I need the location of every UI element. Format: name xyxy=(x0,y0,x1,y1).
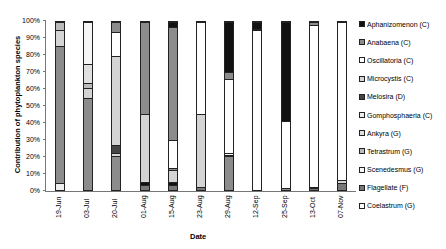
bar-segment xyxy=(310,188,318,190)
x-tick-label: 07-Nov xyxy=(337,195,344,218)
legend-label: Microcystis (C) xyxy=(367,75,413,82)
legend-swatch-icon xyxy=(359,203,365,209)
legend-label: Ankyra (G) xyxy=(367,130,401,137)
bar-segment xyxy=(282,188,290,190)
bar-segment xyxy=(112,32,120,56)
x-tick-label: 20-Jul xyxy=(111,199,118,218)
bar-segment xyxy=(197,187,205,190)
bar-segment xyxy=(56,183,64,190)
legend-item: Melosira (D) xyxy=(359,88,432,106)
y-tick-label: 10% xyxy=(18,170,40,177)
y-tick-mark xyxy=(43,105,46,106)
y-tick-mark xyxy=(43,37,46,38)
bar-29-Aug xyxy=(224,21,234,191)
bar-segment xyxy=(112,22,120,32)
y-tick-label: 60% xyxy=(18,85,40,92)
bar-segment xyxy=(112,56,120,145)
bar-20-Jul xyxy=(111,21,121,191)
y-tick-label: 40% xyxy=(18,119,40,126)
bar-segment xyxy=(56,30,64,45)
bar-segment xyxy=(253,22,261,29)
y-tick-mark xyxy=(43,71,46,72)
bar-segment xyxy=(56,46,64,184)
x-tick-label: 12-Sep xyxy=(252,195,259,218)
legend-swatch-icon xyxy=(359,76,365,82)
legend-swatch-icon xyxy=(359,148,365,154)
x-tick-label: 13-Oct xyxy=(309,197,316,218)
legend-label: Anabaena (C) xyxy=(367,39,411,46)
bar-segment xyxy=(282,121,290,188)
bar-segment xyxy=(84,98,92,190)
y-tick-mark xyxy=(43,122,46,123)
bar-segment xyxy=(225,79,233,153)
bar-15-Aug xyxy=(168,21,178,191)
legend-label: Flagellate (F) xyxy=(367,184,408,191)
legend-swatch-icon xyxy=(359,185,365,191)
legend-item: Scenedesmus (G) xyxy=(359,161,432,179)
legend-item: Gomphosphaeria (C) xyxy=(359,106,432,124)
legend-item: Microcystis (C) xyxy=(359,70,432,88)
x-tick-label: 25-Sep xyxy=(281,195,288,218)
legend-item: Flagellate (F) xyxy=(359,179,432,197)
bar-segment xyxy=(310,25,318,186)
y-tick-label: 90% xyxy=(18,34,40,41)
legend-label: Scenedesmus (G) xyxy=(367,166,423,173)
x-tick-label: 03-Jul xyxy=(83,199,90,218)
y-tick-label: 30% xyxy=(18,136,40,143)
bar-segment xyxy=(169,170,177,182)
y-tick-mark xyxy=(43,20,46,21)
bar-segment xyxy=(56,22,64,30)
x-tick-label: 15-Aug xyxy=(168,195,175,218)
y-tick-label: 80% xyxy=(18,51,40,58)
legend-label: Aphanizomenon (C) xyxy=(367,21,429,28)
bar-segment xyxy=(141,114,149,181)
bar-13-Oct xyxy=(309,21,319,191)
y-tick-mark xyxy=(43,88,46,89)
legend-swatch-icon xyxy=(359,167,365,173)
bar-segment xyxy=(197,114,205,186)
bar-12-Sep xyxy=(252,21,262,191)
bar-segment xyxy=(338,22,346,180)
legend-item: Oscillatoria (C) xyxy=(359,51,432,69)
y-tick-mark xyxy=(43,139,46,140)
bar-25-Sep xyxy=(281,21,291,191)
legend-item: Anabaena (C) xyxy=(359,33,432,51)
legend-swatch-icon xyxy=(359,39,365,45)
bar-segment xyxy=(112,156,120,190)
x-tick-label: 01-Aug xyxy=(140,195,147,218)
y-tick-mark xyxy=(43,173,46,174)
bar-segment xyxy=(338,183,346,190)
legend-item: Tetrastrum (G) xyxy=(359,142,432,160)
bar-01-Aug xyxy=(140,21,150,191)
bar-segment xyxy=(282,22,290,121)
bar-segment xyxy=(141,185,149,190)
bar-23-Aug xyxy=(196,21,206,191)
legend: Aphanizomenon (C)Anabaena (C)Oscillatori… xyxy=(359,15,432,215)
legend-label: Coelastrum (G) xyxy=(367,202,415,209)
legend-label: Melosira (D) xyxy=(367,93,405,100)
legend-label: Tetrastrum (G) xyxy=(367,148,412,155)
legend-swatch-icon xyxy=(359,130,365,136)
bar-segment xyxy=(169,27,177,140)
bar-segment xyxy=(225,72,233,79)
legend-swatch-icon xyxy=(359,112,365,118)
bar-segment xyxy=(253,30,261,190)
y-tick-mark xyxy=(43,190,46,191)
y-tick-label: 0% xyxy=(18,187,40,194)
x-tick-label: 23-Aug xyxy=(196,195,203,218)
legend-swatch-icon xyxy=(359,21,365,27)
bar-07-Nov xyxy=(337,21,347,191)
bar-segment xyxy=(169,185,177,190)
bar-segment xyxy=(84,64,92,82)
legend-label: Gomphosphaeria (C) xyxy=(367,112,432,119)
bar-segment xyxy=(225,156,233,190)
legend-swatch-icon xyxy=(359,94,365,100)
legend-item: Aphanizomenon (C) xyxy=(359,15,432,33)
y-tick-label: 100% xyxy=(18,17,40,24)
bar-segment xyxy=(84,22,92,64)
bar-03-Jul xyxy=(83,21,93,191)
plot-area xyxy=(45,21,356,192)
bar-segment xyxy=(112,145,120,153)
x-axis-label: Date xyxy=(190,232,206,241)
bar-segment xyxy=(197,22,205,114)
